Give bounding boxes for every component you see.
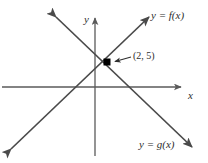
- math-graph-figure: y = f(x) y = g(x) y x (2, 5): [0, 0, 208, 163]
- function-g-label: y = g(x): [139, 139, 175, 150]
- intersection-point-label: (2, 5): [133, 51, 155, 61]
- y-axis-label: y: [84, 14, 89, 25]
- function-g-line: [56, 17, 192, 147]
- function-f-line: [11, 17, 149, 149]
- function-f-label: y = f(x): [151, 10, 184, 21]
- graph-canvas: [0, 0, 208, 163]
- annotation-leader-arrow: [115, 57, 131, 62]
- intersection-point-marker: [104, 59, 111, 66]
- x-axis-label: x: [188, 90, 193, 101]
